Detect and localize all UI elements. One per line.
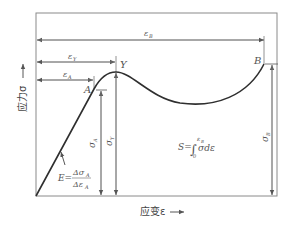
svg-text:E=: E= — [57, 173, 72, 183]
modulus-pointer-arrow — [61, 152, 65, 165]
svg-text:应变ε: 应变ε — [140, 205, 165, 217]
energy-formula: S= ∫ ε B 0 σdε — [178, 135, 215, 159]
sigma-a-label: σ A — [87, 138, 98, 148]
svg-text:A: A — [84, 184, 89, 190]
svg-text:B: B — [265, 132, 271, 137]
eps-y-dimension — [37, 56, 116, 72]
svg-text:Y: Y — [73, 56, 77, 62]
stress-strain-diagram: A Y B ε B ε Y ε A σ A σ Y σ B E= Δσ A Δε… — [0, 0, 305, 226]
sigma-y-label: σ Y — [104, 136, 115, 146]
svg-text:ε: ε — [144, 29, 148, 38]
point-b-label: B — [253, 55, 261, 66]
modulus-formula: E= Δσ A Δε A — [57, 168, 91, 190]
point-a-label: A — [83, 84, 91, 95]
svg-text:A: A — [85, 172, 90, 178]
svg-text:A: A — [67, 74, 72, 80]
svg-text:Y: Y — [109, 136, 115, 140]
svg-text:应力σ: 应力σ — [16, 85, 28, 112]
svg-text:Δσ: Δσ — [72, 168, 85, 177]
sigma-b-dimension — [265, 64, 278, 195]
eps-a-label: ε A — [63, 70, 72, 80]
eps-b-label: ε B — [144, 29, 153, 39]
sigma-b-label: σ B — [260, 132, 271, 142]
svg-text:σdε: σdε — [198, 143, 215, 153]
svg-text:B: B — [148, 33, 153, 39]
point-y-label: Y — [120, 59, 128, 70]
y-axis-label: 应力σ — [16, 64, 28, 112]
x-axis-label: 应变ε — [140, 205, 184, 217]
svg-text:ε: ε — [197, 135, 200, 142]
svg-text:A: A — [92, 138, 98, 143]
eps-y-label: ε Y — [68, 52, 77, 62]
svg-text:Δε: Δε — [72, 180, 83, 189]
svg-text:ε: ε — [63, 70, 67, 79]
svg-text:ε: ε — [68, 52, 72, 61]
